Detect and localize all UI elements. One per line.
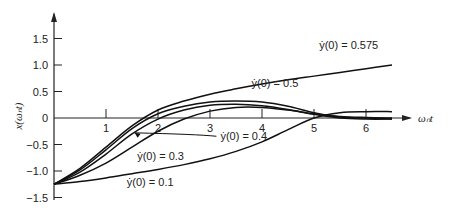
annotations: ẏ(0) = 0.575ẏ(0) = 0.5ẏ(0) = 0.4ẏ(0) = 0…	[127, 39, 378, 188]
curve-label-4: ẏ(0) = 0.1	[127, 176, 174, 188]
x-tick-label: 5	[311, 122, 317, 134]
x-axis-arrow-icon	[402, 115, 412, 121]
y-tick-label: −1.0	[26, 165, 48, 177]
curve-label-2: ẏ(0) = 0.4	[220, 130, 267, 142]
y-tick-label: 1.0	[33, 59, 48, 71]
curve-label-1: ẏ(0) = 0.5	[252, 77, 299, 89]
y-tick-label: 0.5	[33, 86, 48, 98]
y-axis-label: x(ωₙt)	[12, 102, 25, 130]
y-tick-label: 0	[42, 112, 48, 124]
y-tick-label: −0.5	[26, 139, 48, 151]
arrowhead-icon	[135, 133, 141, 138]
curve-label-0: ẏ(0) = 0.575	[319, 39, 378, 51]
response-curves-chart: 1.51.00.50−0.5−1.0−1.5123456 ẏ(0) = 0.57…	[0, 0, 462, 214]
label-pointer-arrow	[135, 133, 217, 136]
x-tick-label: 3	[207, 122, 213, 134]
x-axis-label: ωₙt	[418, 112, 434, 124]
curve-series-1	[54, 101, 392, 184]
curve-label-3: ẏ(0) = 0.3	[137, 150, 184, 162]
y-tick-label: −1.5	[26, 192, 48, 204]
y-tick-label: 1.5	[33, 33, 48, 45]
x-tick-label: 1	[103, 122, 109, 134]
y-axis-arrow-icon	[51, 12, 57, 22]
x-tick-label: 6	[363, 122, 369, 134]
